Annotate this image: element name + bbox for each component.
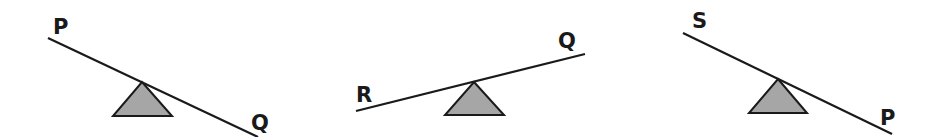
seesaw-beam bbox=[48, 38, 258, 137]
seesaw-diagram: PQRQSP bbox=[0, 0, 941, 137]
fulcrum-triangle bbox=[749, 79, 807, 113]
right-end-label: P bbox=[880, 106, 895, 130]
fulcrum-triangle bbox=[113, 82, 172, 116]
right-end-label: Q bbox=[251, 111, 269, 135]
seesaw-2: RQ bbox=[356, 29, 585, 115]
seesaw-3: SP bbox=[683, 9, 895, 134]
left-end-label: S bbox=[692, 9, 707, 33]
left-end-label: R bbox=[356, 83, 372, 107]
seesaw-1: PQ bbox=[48, 15, 269, 137]
left-end-label: P bbox=[53, 15, 68, 39]
right-end-label: Q bbox=[558, 29, 576, 53]
seesaw-beam bbox=[683, 33, 892, 134]
seesaws-group: PQRQSP bbox=[48, 9, 895, 137]
